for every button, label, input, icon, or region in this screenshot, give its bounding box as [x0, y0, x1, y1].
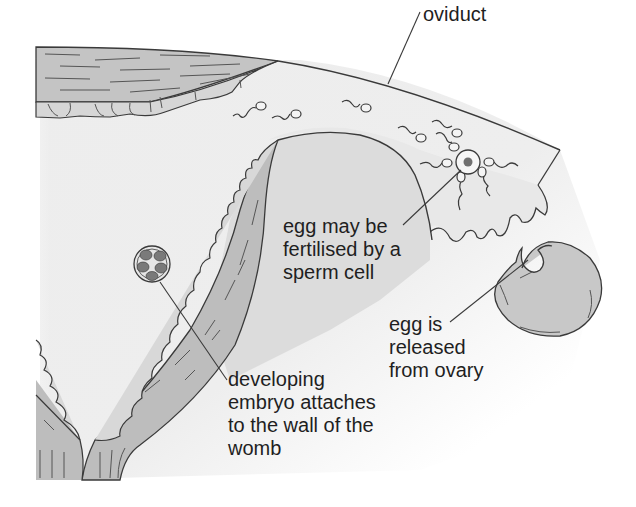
leader-oviduct	[388, 12, 420, 84]
label-fertilisation: egg may be fertilised by a sperm cell	[283, 215, 401, 284]
label-embryo-attachment: developing embryo attaches to the wall o…	[228, 368, 376, 460]
label-oviduct: oviduct	[423, 3, 486, 26]
egg-icon	[456, 150, 480, 174]
embryo-icon	[134, 246, 170, 282]
label-egg-release: egg is released from ovary	[389, 313, 483, 382]
